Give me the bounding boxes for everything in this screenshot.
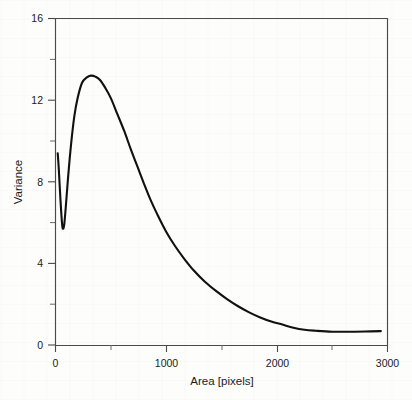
x-axis-title: Area [pixels] xyxy=(190,375,253,387)
y-ticklabel-12: 12 xyxy=(31,94,43,106)
variance-curve xyxy=(58,76,381,332)
y-axis-title: Variance xyxy=(12,160,24,205)
figure-container: 16 12 8 4 0 0 1000 2000 3000 Area [pixel… xyxy=(0,0,412,400)
x-ticklabel-2000: 2000 xyxy=(266,357,290,369)
x-ticklabel-3000: 3000 xyxy=(376,357,400,369)
y-ticklabel-4: 4 xyxy=(37,257,43,269)
x-axis-tick-labels: 0 1000 2000 3000 xyxy=(53,357,400,369)
y-ticklabel-16: 16 xyxy=(31,12,43,24)
y-axis-major-ticks xyxy=(48,19,55,346)
x-ticklabel-0: 0 xyxy=(53,357,59,369)
y-axis-tick-labels: 16 12 8 4 0 xyxy=(31,12,43,351)
y-ticklabel-8: 8 xyxy=(37,176,43,188)
variance-vs-area-chart: 16 12 8 4 0 0 1000 2000 3000 Area [pixel… xyxy=(0,0,412,400)
x-ticklabel-1000: 1000 xyxy=(155,357,179,369)
y-ticklabel-0: 0 xyxy=(37,339,43,351)
